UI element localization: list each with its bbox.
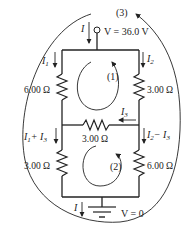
loop-1-path [77, 62, 118, 110]
loop-3-path [23, 14, 180, 222]
ground-current-label: I [73, 202, 78, 213]
resistor-top-left-label: 6.00 Ω [24, 85, 50, 95]
i1-label: I1 [41, 55, 49, 68]
ground-icon [88, 207, 116, 217]
loop-2-label: (2) [110, 161, 122, 173]
i2-minus-i3-label: I2− I3 [146, 129, 170, 142]
resistor-bottom-left-icon [57, 150, 67, 176]
source-terminal-icon [94, 27, 100, 33]
resistor-top-left-icon [57, 74, 67, 100]
i3-label: I3 [120, 106, 128, 119]
i1-plus-i3-label: I1+ I3 [23, 131, 47, 144]
source-voltage-label: V = 36.0 V [104, 26, 150, 37]
loop-3-label: (3) [116, 7, 128, 19]
resistor-top-right-label: 3.00 Ω [147, 85, 173, 95]
resistor-bottom-right-label: 6.00 Ω [147, 161, 173, 171]
loop-1-label: (1) [107, 71, 119, 83]
resistor-top-right-icon [134, 74, 144, 100]
i2-label: I2 [146, 53, 154, 66]
resistor-bottom-left-label: 3.00 Ω [24, 161, 50, 171]
resistor-middle-label: 3.00 Ω [82, 134, 108, 144]
ground-voltage-label: V = 0 [121, 208, 144, 219]
resistor-bottom-right-icon [134, 150, 144, 176]
resistor-middle-icon [83, 120, 109, 130]
circuit-diagram: (3) I V = 36.0 V 6.00 Ω I1 3.00 Ω I2 (1)… [0, 0, 189, 230]
source-current-label: I [80, 23, 85, 34]
